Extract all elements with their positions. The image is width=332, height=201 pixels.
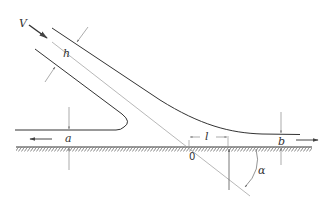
angle-label: α [258, 164, 266, 177]
origin-label: 0 [189, 151, 195, 162]
thickness-label: h [63, 47, 70, 60]
diagram-svg: V h a b l 0 α [0, 0, 332, 201]
jet-upper-boundary [52, 28, 300, 135]
wall [16, 147, 312, 152]
thickness-arrow-top [77, 27, 88, 42]
jet-impingement-diagram: V h a b l 0 α [0, 0, 332, 201]
jet-lower-boundary [15, 49, 128, 130]
length-label: l [205, 130, 209, 143]
angle-arc [245, 149, 258, 187]
right-stream-label: b [278, 135, 285, 148]
velocity-label: V [19, 17, 28, 30]
thickness-arrow-bottom [45, 67, 55, 82]
jet-centerline [52, 42, 250, 196]
velocity-arrow [29, 25, 47, 38]
left-stream-label: a [65, 132, 72, 145]
